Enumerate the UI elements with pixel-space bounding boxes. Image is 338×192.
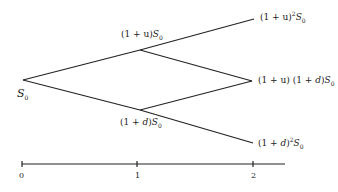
edge-down-updown: [140, 81, 252, 110]
edge-up-updown: [140, 50, 252, 81]
edge-root-down: [23, 80, 140, 110]
node-up: (1 + u)S0: [121, 30, 163, 39]
node-up-up: (1 + u)2S0: [260, 13, 306, 22]
tick-label-1: 1: [135, 172, 140, 180]
node-down-down: (1 + d)2S0: [258, 139, 304, 148]
node-root: S0: [17, 88, 28, 99]
edge-root-up: [23, 50, 140, 80]
tick-label-2: 2: [251, 172, 256, 180]
tick-label-0: 0: [19, 172, 24, 180]
tree-lines: [0, 0, 338, 192]
node-down: (1 + d)S0: [120, 118, 162, 127]
node-up-down: (1 + u) (1 + d)S0: [258, 76, 334, 85]
